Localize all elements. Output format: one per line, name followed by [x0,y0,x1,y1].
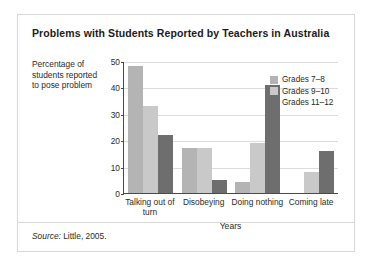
legend-item: Grades 9–10 [270,87,333,96]
y-tick-label: 50 [111,57,120,67]
legend-label: Grades 7–8 [282,75,325,84]
y-axis-label: Percentage of students reported to pose … [32,59,104,91]
chart-card: Problems with Students Reported by Teach… [17,14,355,252]
bar [212,180,227,193]
x-axis-category-labels: Talking out of turnDisobeyingDoing nothi… [123,197,338,218]
source-note: Source: Little, 2005. [32,231,107,241]
legend: Grades 7–8Grades 9–10Grades 11–12 [270,75,333,110]
source-divider [18,222,354,223]
bar-group [128,62,173,193]
legend-swatch-icon [270,76,278,84]
bar [128,66,143,193]
bar [197,148,212,193]
y-tick-label: 40 [111,83,120,93]
y-tick-label: 10 [111,163,120,173]
bar [143,106,158,193]
bar [304,172,319,193]
bar-group [182,62,227,193]
legend-label: Grades 9–10 [282,87,329,96]
legend-swatch-icon [270,87,278,95]
bar [158,135,173,193]
y-tick-label: 30 [111,110,120,120]
bar [235,182,250,193]
source-text: Little, 2005. [61,231,107,241]
y-tick-label: 20 [111,136,120,146]
bar [250,143,265,193]
chart-title: Problems with Students Reported by Teach… [32,27,329,39]
source-label: Source: [32,231,61,241]
legend-item: Grades 11–12 [270,98,333,107]
x-tick-label: Talking out of turn [123,197,177,218]
x-tick-label: Coming late [284,197,338,218]
legend-swatch-icon [270,99,278,107]
legend-label: Grades 11–12 [282,98,333,107]
y-tick-mark [121,194,124,195]
bar [319,151,334,193]
x-tick-label: Doing nothing [231,197,285,218]
legend-item: Grades 7–8 [270,75,333,84]
x-tick-label: Disobeying [177,197,231,218]
y-tick-label: 0 [115,189,120,199]
bar [182,148,197,193]
